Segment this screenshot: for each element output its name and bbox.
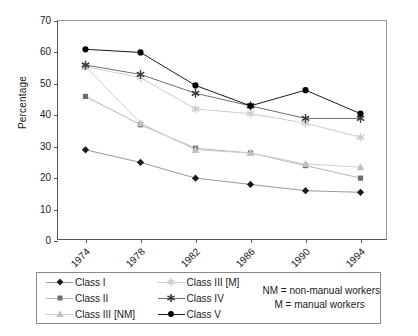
y-tick (54, 21, 58, 22)
y-tick (54, 147, 58, 148)
marker-star (168, 294, 175, 302)
x-tick (141, 239, 142, 243)
legend-key (46, 293, 73, 304)
y-tick-label: 10 (11, 205, 51, 215)
y-tick (54, 115, 58, 116)
legend-key (46, 277, 73, 288)
x-tick-label: 1990 (288, 246, 312, 270)
legend-key (158, 309, 185, 320)
legend-marker-diamond (54, 276, 66, 288)
marker-circle (247, 103, 253, 109)
marker-circle (82, 46, 88, 52)
x-tick (306, 239, 307, 243)
marker-diamond (56, 279, 63, 286)
y-tick-label: 60 (11, 47, 51, 57)
x-tick-label: 1982 (178, 246, 202, 270)
legend-label: Class IV (185, 293, 224, 304)
legend-column-right: Class III [M]Class IVClass V (158, 273, 259, 323)
series-line (86, 67, 361, 138)
y-tick (54, 241, 58, 242)
legend-column-left: Class IClass IIClass III [NM] (37, 273, 158, 323)
legend-marker-circle (165, 308, 177, 320)
y-tick-label: 40 (11, 110, 51, 120)
legend-item[interactable]: Class III [NM] (46, 308, 158, 321)
marker-diamond (192, 175, 199, 182)
legend-marker-star (165, 276, 177, 288)
marker-circle (357, 111, 363, 117)
legend-label: Class III [NM] (73, 309, 135, 320)
marker-triangle (56, 310, 63, 317)
x-tick-label: 1994 (343, 246, 367, 270)
series-canvas (58, 21, 388, 241)
marker-star (192, 89, 199, 97)
y-tick-label: 70 (11, 16, 51, 26)
legend-item[interactable]: Class V (158, 308, 259, 321)
legend-item[interactable]: Class II (46, 292, 158, 305)
legend-marker-square (54, 292, 66, 304)
y-tick-label: 50 (11, 79, 51, 89)
marker-circle (137, 49, 143, 55)
legend-item[interactable]: Class I (46, 276, 158, 289)
x-tick-label: 1974 (68, 246, 92, 270)
series-line (86, 67, 361, 168)
series-class-iv (82, 61, 364, 123)
legend-item[interactable]: Class III [M] (158, 276, 259, 289)
marker-circle (302, 87, 308, 93)
legend-key (158, 293, 185, 304)
marker-diamond (137, 159, 144, 166)
legend-marker-star (165, 292, 177, 304)
marker-circle (168, 311, 174, 317)
legend-item[interactable]: Class IV (158, 292, 259, 305)
legend-label: Class V (185, 309, 221, 320)
marker-circle (192, 82, 198, 88)
legend-label: Class II (73, 293, 108, 304)
y-tick (54, 210, 58, 211)
legend-label: Class I (73, 277, 106, 288)
marker-diamond (82, 146, 89, 153)
series-class-iii-m (82, 62, 364, 141)
legend-notes: NM = non-manual workersM = manual worker… (258, 273, 380, 323)
series-line (86, 150, 361, 192)
y-tick (54, 52, 58, 53)
marker-diamond (247, 181, 254, 188)
marker-square (83, 94, 88, 99)
x-tick (251, 239, 252, 243)
legend-label: Class III [M] (185, 277, 240, 288)
chart-figure: Percentage 01020304050607019741978198219… (0, 0, 418, 336)
y-tick (54, 84, 58, 85)
marker-star (357, 133, 364, 141)
y-tick-label: 30 (11, 142, 51, 152)
series-class-i (82, 146, 364, 196)
y-tick-label: 20 (11, 173, 51, 183)
x-tick (86, 239, 87, 243)
y-tick-label: 0 (11, 236, 51, 246)
marker-diamond (357, 189, 364, 196)
legend-key (158, 277, 185, 288)
series-line (86, 49, 361, 113)
legend-note: M = manual workers (262, 299, 364, 311)
marker-diamond (302, 187, 309, 194)
legend-key (46, 309, 73, 320)
chart-legend: Class IClass IIClass III [NM] Class III … (36, 272, 381, 324)
legend-marker-triangle (54, 308, 66, 320)
y-tick (54, 178, 58, 179)
marker-star (168, 278, 175, 286)
x-tick (196, 239, 197, 243)
marker-square (358, 176, 363, 181)
x-tick-label: 1978 (123, 246, 147, 270)
x-tick-label: 1986 (233, 246, 257, 270)
x-tick (361, 239, 362, 243)
plot-frame: 010203040506070197419781982198619901994 (57, 20, 387, 240)
series-line (86, 65, 361, 118)
legend-note: NM = non-manual workers (262, 285, 380, 297)
marker-square (57, 296, 62, 301)
plot-area (58, 21, 386, 239)
